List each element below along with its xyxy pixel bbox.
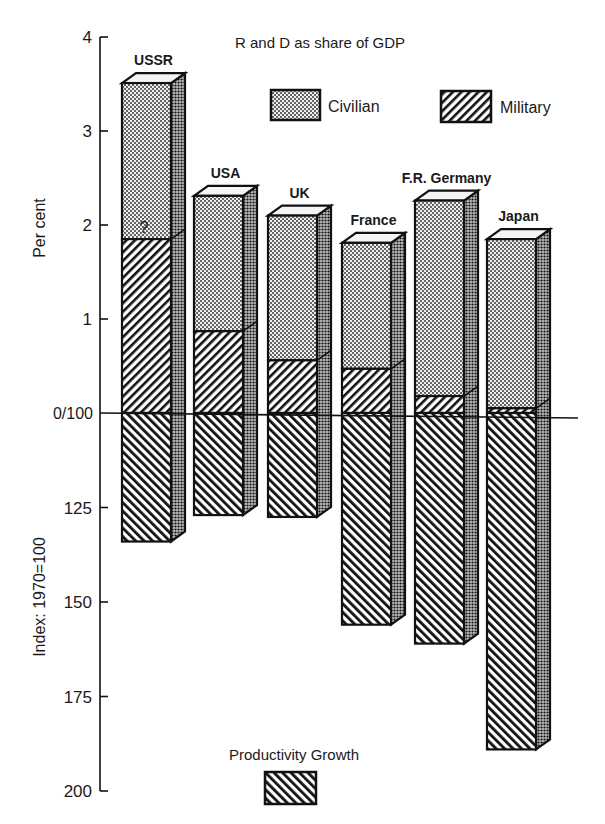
upper-tick-label: 3	[83, 122, 92, 141]
bar-japan: Japan	[487, 208, 550, 749]
legend-military-label: Military	[500, 99, 551, 116]
bar-civilian-segment	[415, 201, 464, 397]
bar-france: France	[342, 212, 405, 625]
bar-side-face	[536, 229, 550, 749]
category-label: UK	[289, 185, 309, 201]
bar-side-face	[243, 186, 257, 515]
bar-civilian-segment	[487, 239, 536, 408]
legend-civilian-label: Civilian	[328, 98, 380, 115]
lower-y-axis: 125150175200 Index: 1970=100	[31, 413, 108, 801]
lower-axis-label: Index: 1970=100	[31, 537, 48, 657]
legend-military-swatch	[441, 91, 491, 122]
bar-military-segment	[122, 239, 171, 413]
bar-productivity-segment	[342, 413, 391, 625]
chart-title: R and D as share of GDP	[235, 34, 405, 51]
bar-productivity-segment	[268, 413, 317, 517]
lower-tick-label: 200	[64, 782, 92, 801]
category-label: USA	[211, 165, 241, 181]
category-label: France	[351, 212, 397, 228]
category-label: Japan	[498, 208, 538, 224]
bar-civilian-segment	[122, 83, 171, 239]
bar-productivity-segment	[122, 413, 171, 542]
bar-productivity-segment	[194, 413, 243, 515]
upper-tick-label: 4	[83, 28, 92, 47]
lower-tick-label: 175	[64, 688, 92, 707]
category-label: F.R. Germany	[402, 170, 492, 186]
bar-productivity-segment	[415, 413, 464, 644]
bar-civilian-segment	[268, 216, 317, 361]
legend-military: Military	[441, 91, 551, 122]
bar-ussr: USSR	[122, 52, 185, 541]
category-label: USSR	[134, 52, 173, 68]
bar-uk: UK	[268, 185, 331, 517]
bar-f-r-germany: F.R. Germany	[402, 170, 492, 644]
upper-axis-label: Per cent	[31, 198, 48, 258]
legend-civilian: Civilian	[271, 90, 380, 120]
upper-y-axis: 4321 Per cent	[31, 28, 108, 413]
bar-side-face	[391, 233, 405, 625]
bar-side-face	[317, 206, 331, 517]
lower-tick-label: 150	[64, 593, 92, 612]
legend-productivity-label: Productivity Growth	[229, 746, 359, 763]
lower-tick-label: 125	[64, 499, 92, 518]
upper-tick-label: 1	[83, 310, 92, 329]
rd-productivity-chart: R and D as share of GDP Civilian Militar…	[0, 0, 605, 824]
bar-military-segment	[268, 360, 317, 413]
bar-civilian-segment	[194, 196, 243, 331]
upper-tick-label: 2	[83, 216, 92, 235]
bar-side-face	[171, 73, 185, 541]
bar-military-segment	[415, 396, 464, 413]
legend-productivity-swatch	[265, 772, 316, 804]
bar-civilian-segment	[342, 243, 391, 369]
zero-tick-label: 0/100	[53, 405, 93, 422]
legend-civilian-swatch	[271, 90, 320, 120]
bar-military-segment	[194, 331, 243, 413]
bar-productivity-segment	[487, 413, 536, 749]
ussr-uncertainty-mark: ?	[140, 219, 149, 236]
bar-military-segment	[342, 369, 391, 413]
bars-group: USSRUSAUKFranceF.R. GermanyJapan?	[122, 52, 550, 749]
legend-productivity: Productivity Growth	[229, 746, 359, 804]
bar-usa: USA	[194, 165, 257, 515]
